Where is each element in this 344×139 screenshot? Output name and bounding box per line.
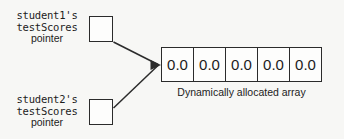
dynamic-array: 0.0 0.0 0.0 0.0 0.0 (161, 47, 322, 82)
student2-label-line-1: student2's (4, 94, 90, 106)
arrowhead-icon (151, 60, 162, 70)
array-cell-2: 0.0 (226, 48, 258, 81)
array-caption: Dynamically allocated array (161, 86, 322, 98)
diagram-canvas: student1's testScores pointer student2's… (0, 0, 344, 139)
student1-label-line-3: pointer (4, 33, 90, 45)
student2-label-line-3: pointer (4, 117, 90, 129)
connector-line-student2 (114, 66, 159, 109)
array-cell-1: 0.0 (194, 48, 226, 81)
array-cell-4: 0.0 (290, 48, 321, 81)
array-cell-3: 0.0 (258, 48, 290, 81)
connector-line-student1 (114, 42, 159, 65)
student2-pointer-box (89, 99, 113, 125)
student1-label-line-1: student1's (4, 10, 90, 22)
student1-pointer-box (89, 16, 113, 42)
array-cell-0: 0.0 (162, 48, 194, 81)
student2-pointer-label: student2's testScores pointer (4, 94, 90, 129)
student1-pointer-label: student1's testScores pointer (4, 10, 90, 45)
